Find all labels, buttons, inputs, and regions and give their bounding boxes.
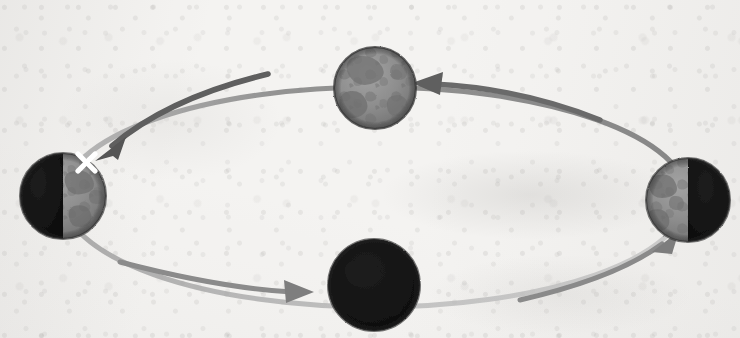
orbital-phase-figure <box>0 0 740 338</box>
caption-layer <box>0 0 740 338</box>
